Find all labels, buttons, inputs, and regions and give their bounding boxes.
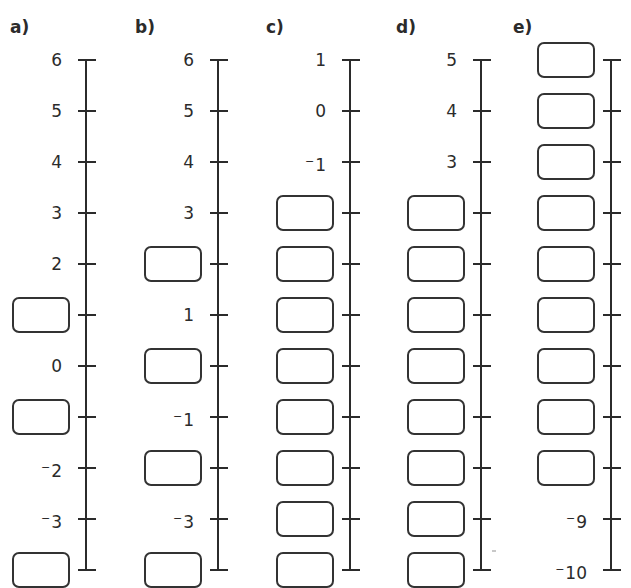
tick-mark <box>603 212 621 214</box>
tick-label: −1 <box>154 407 194 430</box>
tick-mark <box>78 263 96 265</box>
tick-mark <box>210 416 228 418</box>
tick-mark <box>342 467 360 469</box>
tick-mark <box>210 110 228 112</box>
tick-mark <box>603 416 621 418</box>
answer-box[interactable] <box>144 450 202 486</box>
answer-box[interactable] <box>144 246 202 282</box>
answer-box[interactable] <box>276 552 334 588</box>
tick-mark <box>210 314 228 316</box>
tick-label: 6 <box>22 50 62 70</box>
tick-value: 3 <box>51 512 62 532</box>
answer-box[interactable] <box>276 297 334 333</box>
tick-label: 3 <box>154 203 194 223</box>
tick-mark <box>342 569 360 571</box>
tick-mark <box>603 314 621 316</box>
answer-box[interactable] <box>407 348 465 384</box>
answer-box[interactable] <box>537 399 595 435</box>
answer-box[interactable] <box>407 297 465 333</box>
answer-box[interactable] <box>276 246 334 282</box>
tick-mark <box>603 518 621 520</box>
answer-box[interactable] <box>276 450 334 486</box>
tick-mark <box>78 212 96 214</box>
answer-box[interactable] <box>12 552 70 588</box>
answer-box[interactable] <box>537 450 595 486</box>
tick-label: 3 <box>22 203 62 223</box>
part-label: e) <box>513 17 532 37</box>
tick-mark <box>473 518 491 520</box>
tick-label: 1 <box>154 305 194 325</box>
part-label: b) <box>135 17 155 37</box>
tick-mark <box>473 365 491 367</box>
tick-label: 0 <box>22 356 62 376</box>
tick-label: 5 <box>417 50 457 70</box>
part-label: c) <box>266 17 284 37</box>
tick-mark <box>473 314 491 316</box>
answer-box[interactable] <box>537 93 595 129</box>
negative-sign: − <box>305 155 314 168</box>
answer-box[interactable] <box>276 399 334 435</box>
answer-box[interactable] <box>537 348 595 384</box>
tick-mark <box>473 110 491 112</box>
tick-label: 6 <box>154 50 194 70</box>
negative-sign: − <box>173 410 182 423</box>
tick-mark <box>342 518 360 520</box>
part-label: d) <box>396 17 416 37</box>
tick-mark <box>210 467 228 469</box>
answer-box[interactable] <box>537 42 595 78</box>
negative-sign: − <box>566 512 575 525</box>
negative-sign: − <box>555 563 564 576</box>
answer-box[interactable] <box>537 246 595 282</box>
negative-sign: − <box>173 512 182 525</box>
answer-box[interactable] <box>12 297 70 333</box>
answer-box[interactable] <box>407 246 465 282</box>
answer-box[interactable] <box>407 450 465 486</box>
tick-mark <box>78 518 96 520</box>
tick-mark <box>473 467 491 469</box>
tick-label: 4 <box>22 152 62 172</box>
tick-mark <box>210 212 228 214</box>
answer-box[interactable] <box>276 501 334 537</box>
answer-box[interactable] <box>537 195 595 231</box>
tick-mark <box>603 569 621 571</box>
tick-mark <box>342 416 360 418</box>
answer-box[interactable] <box>276 348 334 384</box>
answer-box[interactable] <box>407 501 465 537</box>
tick-value: 9 <box>576 512 587 532</box>
answer-box[interactable] <box>144 552 202 588</box>
tick-mark <box>473 212 491 214</box>
answer-box[interactable] <box>407 399 465 435</box>
tick-mark <box>603 467 621 469</box>
tick-label: 5 <box>22 101 62 121</box>
tick-mark <box>342 314 360 316</box>
tick-mark <box>342 161 360 163</box>
tick-mark <box>78 59 96 61</box>
tick-mark <box>603 365 621 367</box>
tick-label: 1 <box>286 50 326 70</box>
tick-mark <box>210 161 228 163</box>
tick-label: −3 <box>154 509 194 532</box>
tick-label: 5 <box>154 101 194 121</box>
tick-label: 4 <box>417 101 457 121</box>
answer-box[interactable] <box>407 552 465 588</box>
tick-label: −10 <box>547 560 587 583</box>
tick-label: −3 <box>22 509 62 532</box>
tick-value: 1 <box>315 155 326 175</box>
negative-sign: − <box>41 512 50 525</box>
tick-mark <box>603 59 621 61</box>
scan-speck <box>492 550 496 552</box>
answer-box[interactable] <box>12 399 70 435</box>
tick-mark <box>342 110 360 112</box>
answer-box[interactable] <box>276 195 334 231</box>
answer-box[interactable] <box>537 297 595 333</box>
negative-sign: − <box>41 461 50 474</box>
tick-mark <box>210 518 228 520</box>
tick-value: 1 <box>183 410 194 430</box>
answer-box[interactable] <box>144 348 202 384</box>
answer-box[interactable] <box>407 195 465 231</box>
tick-mark <box>78 110 96 112</box>
tick-mark <box>342 365 360 367</box>
tick-mark <box>473 263 491 265</box>
answer-box[interactable] <box>537 144 595 180</box>
tick-mark <box>78 416 96 418</box>
